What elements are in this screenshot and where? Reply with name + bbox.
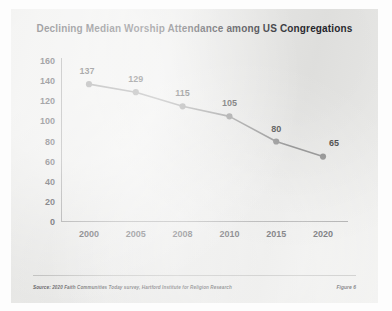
x-tick-label: 2008: [173, 229, 193, 239]
y-tick-label: 160: [40, 56, 55, 66]
x-tick-label: 2005: [126, 229, 146, 239]
chart-title: Declining Median Worship Attendance amon…: [11, 23, 378, 34]
data-point-marker: [273, 138, 279, 144]
data-point-marker: [133, 89, 139, 95]
data-point-label: 137: [79, 66, 94, 76]
attendance-line-series: [61, 61, 348, 222]
data-point-label: 115: [175, 88, 190, 98]
y-tick-label: 80: [45, 137, 55, 147]
data-point-label: 129: [128, 74, 143, 84]
source-note: Source: 2020 Faith Communities Today sur…: [33, 285, 232, 290]
x-tick-label: 2000: [79, 229, 99, 239]
data-point-marker: [226, 113, 232, 119]
series-line: [89, 84, 323, 156]
data-point-marker: [86, 81, 92, 87]
y-tick-label: 140: [40, 76, 55, 86]
plot-area: 020406080100120140160 200020052008201020…: [61, 61, 348, 222]
data-point-label: 105: [222, 98, 237, 108]
scanned-page: Declining Median Worship Attendance amon…: [0, 0, 392, 311]
figure-label: Figure 6: [337, 284, 356, 290]
data-point-label: 65: [329, 138, 339, 148]
x-tick-label: 2010: [219, 229, 239, 239]
y-tick-label: 20: [45, 197, 55, 207]
x-tick-label: 2020: [313, 229, 333, 239]
y-tick-label: 120: [40, 96, 55, 106]
footer-divider: [33, 275, 356, 276]
data-point-label: 80: [271, 124, 281, 134]
y-tick-label: 40: [45, 177, 55, 187]
figure-panel: Declining Median Worship Attendance amon…: [11, 9, 378, 303]
y-tick-label: 60: [45, 157, 55, 167]
data-point-marker: [180, 103, 186, 109]
x-tick-label: 2015: [266, 229, 286, 239]
y-tick-label: 100: [40, 116, 55, 126]
y-tick-label: 0: [50, 217, 55, 227]
data-point-marker: [320, 153, 326, 159]
